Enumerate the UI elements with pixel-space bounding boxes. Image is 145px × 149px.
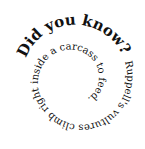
spiral-text-graphic: Did you know? Ruppell's vultures climb r…	[0, 0, 145, 149]
headline-text: Did you know?	[13, 10, 135, 59]
spiral-caption: Did you know? Ruppell's vultures climb r…	[13, 10, 138, 133]
